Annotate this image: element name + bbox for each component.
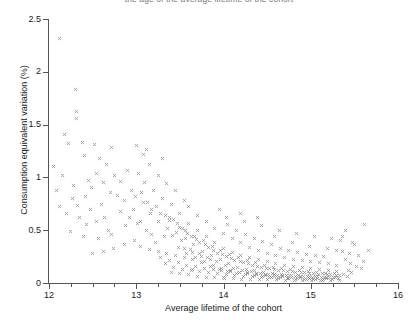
data-point: [304, 277, 309, 282]
data-point: [240, 268, 245, 273]
data-point: [256, 257, 261, 262]
data-point: [104, 162, 109, 167]
data-point: [180, 267, 185, 272]
data-point: [279, 272, 284, 277]
data-point: [252, 236, 257, 241]
data-point: [236, 255, 241, 260]
data-point: [324, 276, 329, 281]
data-point: [320, 278, 325, 283]
data-point: [259, 275, 264, 280]
data-point: [231, 276, 236, 281]
data-point: [265, 259, 270, 264]
data-point: [328, 272, 333, 277]
data-point: [221, 246, 226, 251]
data-point: [282, 255, 287, 260]
data-point: [219, 266, 224, 271]
data-point: [199, 260, 204, 265]
data-point: [227, 252, 232, 257]
data-point: [308, 259, 313, 264]
data-point: [259, 265, 264, 270]
data-point: [318, 278, 323, 283]
data-point: [62, 132, 67, 137]
data-point: [173, 253, 178, 258]
data-point: [218, 248, 223, 253]
data-point: [330, 277, 335, 282]
data-point: [291, 264, 296, 269]
data-point: [245, 271, 250, 276]
data-point: [288, 267, 293, 272]
data-point: [144, 147, 149, 152]
data-point: [329, 236, 334, 241]
data-point: [193, 264, 198, 269]
data-point: [118, 209, 123, 214]
data-point: [197, 240, 202, 245]
data-point: [296, 273, 301, 278]
data-point: [256, 248, 261, 253]
data-point: [359, 266, 364, 271]
data-point: [262, 263, 267, 268]
data-point: [348, 261, 353, 266]
data-point: [51, 164, 56, 169]
data-point: [136, 171, 141, 176]
data-point: [313, 253, 318, 258]
data-point: [108, 190, 113, 195]
data-point: [237, 270, 242, 275]
data-point: [340, 249, 345, 254]
data-point: [281, 268, 286, 273]
data-point: [57, 204, 62, 209]
data-point: [232, 273, 237, 278]
data-point: [149, 232, 154, 237]
data-point: [343, 257, 348, 262]
data-point: [141, 152, 146, 157]
data-point: [106, 228, 111, 233]
data-point: [180, 226, 185, 231]
data-point: [322, 275, 327, 280]
data-point: [208, 264, 213, 269]
data-point: [149, 207, 154, 212]
data-point: [235, 265, 240, 270]
data-point: [182, 255, 187, 260]
data-point: [315, 276, 320, 281]
data-point: [191, 242, 196, 247]
data-point: [160, 196, 165, 201]
data-point: [334, 269, 339, 274]
data-point: [177, 271, 182, 276]
data-point: [96, 236, 101, 241]
data-point: [204, 275, 209, 280]
data-point: [238, 259, 243, 264]
data-point: [122, 198, 127, 203]
data-point: [195, 213, 200, 218]
data-point: [264, 266, 269, 271]
data-point: [138, 244, 143, 249]
data-point: [111, 246, 116, 251]
data-point: [192, 234, 197, 239]
data-point: [269, 275, 274, 280]
data-point: [316, 272, 321, 277]
data-point: [217, 267, 222, 272]
data-point: [68, 229, 73, 234]
data-point: [190, 257, 195, 262]
y-axis-title: Consumption equivalent variation (%): [19, 20, 29, 260]
x-tick-label: 16: [378, 291, 418, 300]
data-point: [290, 240, 295, 245]
data-point: [215, 251, 220, 256]
data-point: [307, 271, 312, 276]
data-point: [60, 173, 65, 178]
data-point: [86, 178, 91, 183]
data-point: [229, 256, 234, 261]
data-point: [253, 260, 258, 265]
data-point: [313, 274, 318, 279]
data-point: [94, 171, 99, 176]
data-point: [242, 219, 247, 224]
data-point: [94, 219, 99, 224]
data-point: [206, 245, 211, 250]
data-point: [223, 263, 228, 268]
data-point: [211, 263, 216, 268]
data-point: [101, 249, 106, 254]
data-point: [218, 257, 223, 262]
data-point: [332, 271, 337, 276]
data-point: [182, 198, 187, 203]
data-point: [337, 278, 342, 283]
data-point: [153, 240, 158, 245]
data-point: [220, 252, 225, 257]
